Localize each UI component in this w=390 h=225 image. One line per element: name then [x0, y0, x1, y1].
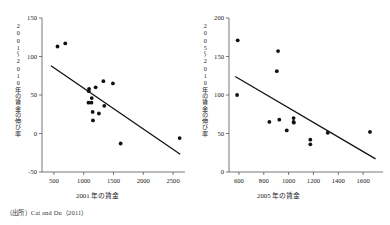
plot-points-right [235, 38, 372, 146]
regression-line [235, 77, 375, 159]
data-point [308, 138, 312, 142]
figure-scatter-pair: -500501001505001000150020002500 2001〜201… [0, 0, 390, 225]
data-point [90, 96, 94, 100]
data-point [368, 130, 372, 134]
x-tick-label: 2500 [166, 177, 180, 184]
data-point [275, 69, 279, 73]
data-point [91, 110, 95, 114]
y-tick-label: 100 [27, 53, 38, 60]
x-tick-label: 1000 [282, 177, 296, 184]
plot-trendline-right [235, 77, 375, 159]
x-axis-title-right: 2005 年の賃金 [257, 190, 300, 200]
plot-axes-left [42, 18, 185, 172]
x-tick-label: 1600 [357, 177, 371, 184]
data-point [111, 82, 115, 86]
data-point [292, 121, 296, 125]
plot-points-left [56, 42, 182, 146]
data-point [102, 104, 106, 108]
plot-ticks-right [226, 18, 363, 175]
data-point [90, 101, 94, 105]
y-axis-title-left: 2001〜2010年の賃金の伸び率 [14, 22, 21, 137]
data-point [276, 49, 280, 53]
regression-line [51, 66, 180, 155]
data-point [94, 85, 98, 89]
data-point [87, 89, 91, 93]
x-tick-label: 500 [49, 177, 60, 184]
x-tick-label: 1500 [107, 177, 121, 184]
data-point [236, 38, 240, 42]
x-tick-label: 1000 [77, 177, 91, 184]
data-point [97, 112, 101, 116]
data-point [63, 42, 67, 46]
plot-axes-right [229, 18, 383, 172]
y-tick-label: 50 [30, 91, 37, 98]
y-tick-label: 100 [214, 91, 225, 98]
plot-ticks-left [39, 18, 173, 175]
x-tick-label: 1400 [332, 177, 346, 184]
y-tick-label: 0 [34, 130, 38, 137]
y-tick-label: 0 [221, 168, 225, 175]
scatter-plot-right: 0501001502006008001000120014001600 [195, 0, 390, 205]
data-point [292, 116, 296, 120]
data-point [178, 136, 182, 140]
chart-panel-left: -500501001505001000150020002500 2001〜201… [0, 0, 195, 205]
plot-ticklabels-left: -500501001505001000150020002500 [27, 14, 180, 184]
y-axis-title-right: 2005〜2010年の賃金の伸び率 [201, 22, 208, 137]
data-point [56, 45, 60, 49]
source-note: （出所）Cai and Du（2011） [6, 208, 88, 217]
x-tick-label: 2000 [137, 177, 151, 184]
data-point [277, 118, 281, 122]
x-axis-title-left: 2001 年の賃金 [76, 190, 119, 200]
x-tick-label: 1200 [307, 177, 321, 184]
x-tick-label: 800 [259, 177, 270, 184]
y-tick-label: 200 [214, 14, 225, 21]
data-point [285, 129, 289, 133]
data-point [91, 119, 95, 123]
plot-trendline-left [51, 66, 180, 155]
y-tick-label: 150 [27, 14, 38, 21]
data-point [101, 79, 105, 83]
y-tick-label: 50 [217, 130, 224, 137]
y-tick-label: -50 [28, 168, 37, 175]
scatter-plot-left: -500501001505001000150020002500 [0, 0, 195, 205]
chart-panel-right: 0501001502006008001000120014001600 2005〜… [195, 0, 390, 205]
x-tick-label: 600 [234, 177, 245, 184]
data-point [308, 142, 312, 146]
data-point [267, 120, 271, 124]
data-point [326, 131, 330, 135]
data-point [235, 93, 239, 97]
data-point [119, 142, 123, 146]
y-tick-label: 150 [214, 53, 225, 60]
